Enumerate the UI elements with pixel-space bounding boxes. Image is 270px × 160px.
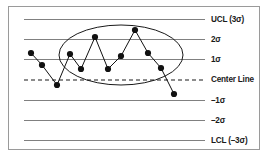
- data-point: [105, 66, 111, 72]
- label-plus-1-sigma: 1σ: [211, 55, 221, 63]
- label-minus-1-sigma: –1σ: [211, 96, 225, 104]
- data-point: [92, 34, 98, 40]
- data-point: [132, 27, 138, 33]
- data-point: [145, 50, 151, 56]
- data-point: [28, 50, 34, 56]
- control-chart: UCL (3σ) 2σ 1σ Center Line –1σ –2σ LCL (…: [0, 0, 270, 160]
- data-point: [171, 91, 177, 97]
- label-center-line: Center Line: [211, 76, 254, 84]
- label-plus-2-sigma: 2σ: [211, 35, 221, 43]
- label-minus-2-sigma: –2σ: [211, 116, 225, 124]
- data-point: [39, 62, 45, 68]
- label-lcl: LCL (–3σ): [211, 136, 247, 144]
- label-ucl: UCL (3σ): [211, 15, 244, 23]
- data-point: [54, 82, 60, 88]
- data-point: [67, 51, 73, 57]
- data-point: [118, 53, 124, 59]
- data-point: [78, 66, 84, 72]
- data-point: [158, 65, 164, 71]
